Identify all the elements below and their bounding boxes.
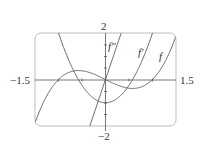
y-max-label: 2: [101, 20, 107, 32]
chart: 2 −2 −1.5 1.5 f″ f′ f: [0, 0, 201, 148]
x-max-label: 1.5: [180, 74, 194, 86]
y-min-label: −2: [98, 130, 110, 142]
x-min-label: −1.5: [10, 74, 30, 86]
legend-f-double-prime: f″: [108, 40, 116, 52]
legend-f: f: [159, 50, 164, 62]
legend-f-prime: f′: [138, 46, 144, 58]
